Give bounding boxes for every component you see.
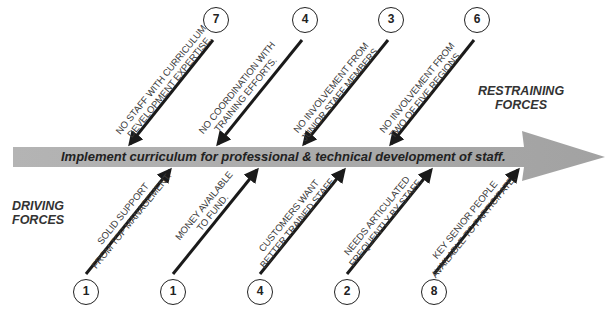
restraining-score-4: 6 (464, 7, 490, 33)
driving-score-3: 4 (247, 279, 273, 305)
driving-score-4: 2 (334, 279, 360, 305)
goal-statement: Implement curriculum for professional & … (61, 148, 506, 166)
driving-forces-label: DRIVING FORCES (12, 199, 66, 227)
restraining-score-2: 4 (292, 7, 318, 33)
restraining-label-line-2: FORCES (478, 98, 564, 112)
restraining-score-3: 3 (378, 7, 404, 33)
driving-label-line-1: DRIVING (12, 199, 66, 213)
driving-label-line-2: FORCES (12, 213, 66, 227)
driving-score-2: 1 (160, 279, 186, 305)
driving-score-1: 1 (73, 279, 99, 305)
restraining-forces-label: RESTRAINING FORCES (478, 84, 564, 112)
force-field-diagram: Implement curriculum for professional & … (0, 0, 605, 326)
restraining-label-line-1: RESTRAINING (478, 84, 564, 98)
